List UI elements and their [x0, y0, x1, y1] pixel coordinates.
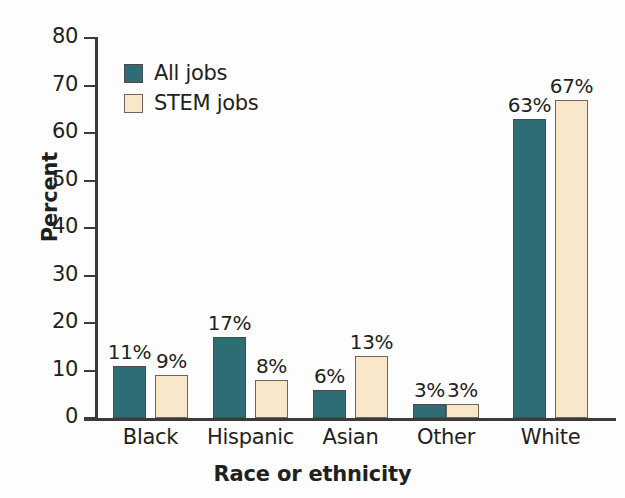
bar-black-all-jobs: [113, 366, 146, 418]
y-axis-tick: [84, 227, 95, 229]
y-axis-line: [95, 37, 98, 419]
bar-value-label: 9%: [143, 349, 200, 373]
bar-white-all-jobs: [513, 119, 546, 418]
legend-item-stem-jobs: STEM jobs: [124, 88, 258, 118]
y-axis-tick-label: 10: [16, 357, 78, 381]
bar-value-label: 67%: [543, 74, 600, 98]
legend-swatch-icon: [124, 94, 143, 113]
y-axis-tick: [84, 275, 95, 277]
y-axis-tick-label: 50: [16, 167, 78, 191]
y-axis-tick: [84, 370, 95, 372]
legend-label: All jobs: [154, 61, 227, 85]
x-axis-label-other: Other: [386, 425, 506, 449]
legend-swatch-icon: [124, 64, 143, 83]
bar-value-label: 13%: [343, 330, 400, 354]
bar-hispanic-all-jobs: [213, 337, 246, 418]
y-axis-tick: [84, 37, 95, 39]
y-axis-tick-label: 0: [16, 404, 78, 428]
bar-hispanic-stem-jobs: [255, 380, 288, 418]
bar-value-label: 17%: [201, 311, 258, 335]
y-axis-tick: [84, 417, 95, 419]
x-axis-title: Race or ethnicity: [0, 462, 625, 486]
y-axis-tick: [84, 322, 95, 324]
y-axis-tick: [84, 132, 95, 134]
bar-value-label: 8%: [243, 354, 300, 378]
bar-chart: Percent 01020304050607080 11%9%17%8%6%13…: [0, 0, 625, 498]
y-axis-tick: [84, 180, 95, 182]
bar-asian-stem-jobs: [355, 356, 388, 418]
bar-black-stem-jobs: [155, 375, 188, 418]
y-axis-tick-label: 20: [16, 309, 78, 333]
bar-asian-all-jobs: [313, 390, 346, 419]
x-axis-label-white: White: [491, 425, 611, 449]
y-axis-tick-label: 40: [16, 214, 78, 238]
legend: All jobsSTEM jobs: [124, 58, 258, 118]
y-axis-tick-label: 80: [16, 24, 78, 48]
y-axis-tick: [84, 85, 95, 87]
y-axis-tick-label: 30: [16, 262, 78, 286]
legend-item-all-jobs: All jobs: [124, 58, 258, 88]
bar-value-label: 6%: [301, 364, 358, 388]
y-axis-tick-label: 60: [16, 119, 78, 143]
bar-other-stem-jobs: [446, 404, 479, 418]
legend-label: STEM jobs: [154, 91, 258, 115]
bar-white-stem-jobs: [555, 100, 588, 418]
bar-value-label: 3%: [434, 378, 491, 402]
bar-other-all-jobs: [413, 404, 446, 418]
y-axis-tick-label: 70: [16, 72, 78, 96]
x-axis-line: [84, 418, 616, 421]
